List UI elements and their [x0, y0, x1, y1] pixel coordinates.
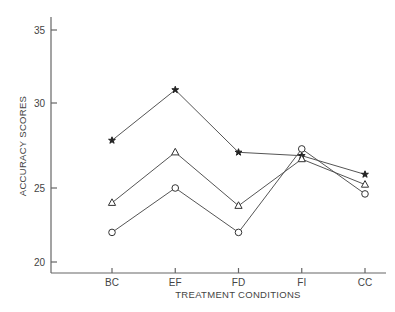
- star-marker-icon: [362, 171, 369, 178]
- series-line: [112, 90, 365, 175]
- y-tick-label: 25: [34, 183, 46, 194]
- x-axis-title: TREATMENT CONDITIONS: [175, 289, 300, 300]
- triangle-marker-icon: [235, 202, 242, 209]
- series-star: [109, 86, 369, 177]
- x-axis: BCEFFDFICC: [51, 268, 386, 288]
- x-tick-label: CC: [358, 277, 372, 288]
- line-chart: 20253035 BCEFFDFICC ACCURACY SCORES TREA…: [0, 0, 395, 312]
- x-tick-label: BC: [105, 277, 119, 288]
- x-tick-label: EF: [169, 277, 182, 288]
- series-triangle: [108, 148, 368, 208]
- y-tick-label: 30: [34, 98, 46, 109]
- y-axis-title: ACCURACY SCORES: [17, 96, 28, 196]
- series-line: [112, 149, 365, 233]
- triangle-marker-icon: [172, 148, 179, 155]
- circle-marker-icon: [235, 229, 242, 236]
- circle-marker-icon: [362, 191, 369, 198]
- series-layer: [108, 86, 368, 235]
- series-circle: [109, 146, 369, 236]
- circle-marker-icon: [172, 185, 179, 192]
- star-marker-icon: [109, 137, 116, 144]
- x-tick-label: FD: [232, 277, 245, 288]
- series-line: [112, 152, 365, 205]
- circle-marker-icon: [109, 229, 116, 236]
- circle-marker-icon: [298, 146, 305, 153]
- y-tick-label: 20: [34, 257, 46, 268]
- triangle-marker-icon: [108, 199, 115, 206]
- y-axis: 20253035: [34, 17, 57, 273]
- y-tick-label: 35: [34, 25, 46, 36]
- x-tick-label: FI: [297, 277, 306, 288]
